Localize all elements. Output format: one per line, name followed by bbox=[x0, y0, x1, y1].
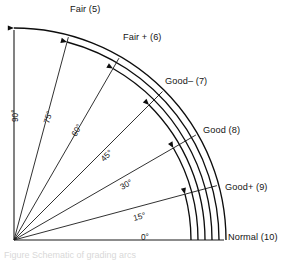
grading-arc-normal bbox=[185, 194, 191, 240]
angle-label-a15: 15° bbox=[132, 210, 147, 223]
arc-arrowheads-group bbox=[8, 25, 186, 194]
grade-label-normal: Normal (10) bbox=[228, 232, 278, 242]
arc-arrowhead-good bbox=[143, 99, 149, 105]
grade-label-goodplus: Good+ (9) bbox=[225, 182, 268, 192]
ray-60deg bbox=[14, 58, 119, 240]
goniometer-figure: 90°75°60°45°30°15°0° Fair (5)Fair + (6)G… bbox=[0, 0, 294, 260]
arc-arrowhead-normal bbox=[181, 188, 186, 195]
angle-label-a90: 90° bbox=[10, 109, 20, 122]
angle-label-a75: 75° bbox=[41, 110, 54, 125]
angle-label-a60: 60° bbox=[69, 122, 84, 138]
arc-arrowhead-goodplus bbox=[168, 141, 173, 148]
ray-lines-group bbox=[14, 30, 224, 240]
arc-arrowhead-fairplus bbox=[60, 38, 67, 43]
angle-label-a30: 30° bbox=[118, 177, 134, 192]
grade-label-fairplus: Fair + (6) bbox=[123, 32, 162, 42]
figure-caption-strip: Figure Schematic of grading arcs bbox=[4, 250, 244, 260]
angle-label-a0: 0° bbox=[141, 232, 149, 242]
ray-15deg bbox=[14, 186, 217, 240]
goniometer-svg: 90°75°60°45°30°15°0° Fair (5)Fair + (6)G… bbox=[0, 0, 294, 260]
figure-caption-text: Figure Schematic of grading arcs bbox=[4, 250, 244, 260]
arc-arrowhead-goodminus bbox=[106, 63, 113, 68]
ray-75deg bbox=[14, 37, 68, 240]
angle-label-a45: 45° bbox=[98, 148, 114, 164]
grade-label-good: Good (8) bbox=[203, 125, 240, 135]
grade-label-goodminus: Good– (7) bbox=[165, 76, 207, 86]
grade-label-fair: Fair (5) bbox=[70, 4, 100, 14]
arc-arrowhead-fair bbox=[8, 25, 14, 30]
